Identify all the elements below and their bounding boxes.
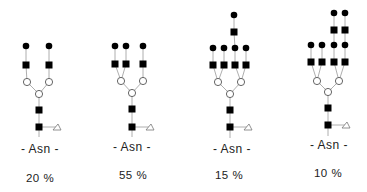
asn-label: - Asn - [113, 140, 151, 154]
mannose-open-circle-icon [335, 77, 342, 84]
glycan-diagram [0, 0, 367, 192]
glcnac-filled-square-icon [23, 62, 30, 69]
glcnac-filled-square-icon [46, 62, 53, 69]
galactose-filled-circle-icon [140, 43, 147, 50]
glcnac-filled-square-icon [342, 59, 349, 66]
glcnac-filled-square-icon [36, 124, 43, 131]
galactose-filled-circle-icon [232, 45, 239, 52]
glycan-structure-tetraantennary-2-lacnac-repeats [308, 10, 351, 136]
glcnac-filled-square-icon [232, 62, 239, 69]
asn-label: - Asn - [213, 142, 251, 156]
glycan-structure-tetraantennary-1-lacnac-repeat [210, 12, 253, 138]
glcnac-filled-square-icon [112, 61, 119, 68]
glycan-structure-biantennary [23, 43, 62, 137]
galactose-filled-circle-icon [331, 10, 338, 17]
glcnac-filled-square-icon [231, 29, 238, 36]
galactose-filled-circle-icon [342, 10, 349, 17]
galactose-filled-circle-icon [342, 42, 349, 49]
glcnac-filled-square-icon [319, 59, 326, 66]
glcnac-filled-square-icon [210, 62, 217, 69]
glcnac-filled-square-icon [331, 59, 338, 66]
galactose-filled-circle-icon [123, 43, 130, 50]
mannose-open-circle-icon [214, 78, 221, 85]
galactose-filled-circle-icon [319, 42, 326, 49]
glycan-structure-triantennary [112, 43, 155, 137]
percentage-label: 20 % [26, 172, 54, 184]
galactose-filled-circle-icon [331, 42, 338, 49]
percentage-label: 55 % [119, 169, 147, 181]
glcnac-filled-square-icon [308, 59, 315, 66]
glcnac-filled-square-icon [129, 106, 136, 113]
glcnac-filled-square-icon [129, 124, 136, 131]
mannose-open-circle-icon [139, 77, 146, 84]
asn-label: - Asn - [310, 138, 348, 152]
mannose-open-circle-icon [128, 89, 135, 96]
galactose-filled-circle-icon [210, 45, 217, 52]
glcnac-filled-square-icon [221, 62, 228, 69]
glcnac-filled-square-icon [325, 122, 332, 129]
percentage-label: 10 % [314, 167, 342, 179]
glcnac-filled-square-icon [325, 105, 332, 112]
glcnac-filled-square-icon [331, 27, 338, 34]
galactose-filled-circle-icon [243, 45, 250, 52]
percentage-label: 15 % [215, 169, 243, 181]
glcnac-filled-square-icon [123, 61, 130, 68]
mannose-open-circle-icon [117, 77, 124, 84]
mannose-open-circle-icon [23, 78, 30, 85]
galactose-filled-circle-icon [23, 43, 30, 50]
galactose-filled-circle-icon [221, 45, 228, 52]
glcnac-filled-square-icon [342, 27, 349, 34]
mannose-open-circle-icon [324, 88, 331, 95]
mannose-open-circle-icon [45, 78, 52, 85]
galactose-filled-circle-icon [112, 43, 119, 50]
glcnac-filled-square-icon [140, 61, 147, 68]
mannose-open-circle-icon [226, 90, 233, 97]
glcnac-filled-square-icon [243, 62, 250, 69]
glcnac-filled-square-icon [227, 107, 234, 114]
glcnac-filled-square-icon [227, 124, 234, 131]
mannose-open-circle-icon [237, 78, 244, 85]
mannose-open-circle-icon [35, 90, 42, 97]
galactose-filled-circle-icon [308, 42, 315, 49]
asn-label: - Asn - [21, 142, 59, 156]
glcnac-filled-square-icon [36, 107, 43, 114]
galactose-filled-circle-icon [231, 12, 238, 19]
mannose-open-circle-icon [313, 77, 320, 84]
galactose-filled-circle-icon [46, 43, 53, 50]
